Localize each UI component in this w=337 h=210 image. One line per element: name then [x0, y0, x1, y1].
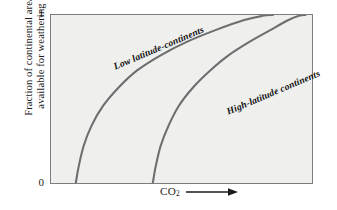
co2-text: CO [160, 185, 176, 197]
x-axis-label: CO2 [160, 185, 238, 198]
x-axis-label-text: CO2 [160, 185, 180, 198]
y-axis-label: Fraction of continental area available f… [15, 0, 55, 141]
figure-container: Low latitude-continents High-latitude co… [0, 0, 337, 210]
y-tick-label-bottom: 0 [30, 176, 44, 188]
y-tick-label-top: 1 [30, 7, 44, 19]
y-axis-label-line-2: available for weathering [35, 3, 48, 108]
right-arrow-icon [186, 187, 238, 197]
plot-panel: Low latitude-continents High-latitude co… [50, 14, 313, 184]
co2-subscript: 2 [176, 189, 180, 198]
